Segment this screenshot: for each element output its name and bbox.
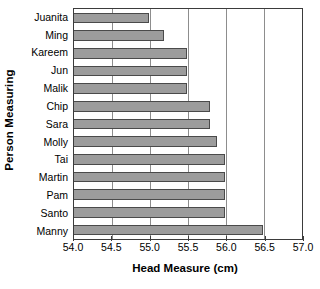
- bar-row: [74, 80, 302, 98]
- bar: [73, 207, 225, 218]
- bar: [73, 154, 225, 165]
- x-tick-label: 55.0: [139, 241, 159, 253]
- bar-row: [74, 186, 302, 204]
- x-axis-title: Head Measure (cm): [60, 262, 310, 274]
- bar: [73, 66, 187, 77]
- x-axis-tick-labels: 54.054.555.055.556.056.557.0: [73, 241, 303, 257]
- category-label: Juanita: [16, 8, 71, 26]
- category-label: Malik: [16, 79, 71, 97]
- x-tick-mark: [188, 236, 189, 241]
- x-tick-label: 57.0: [293, 241, 313, 253]
- bar-row: [74, 168, 302, 186]
- category-label: Ming: [16, 26, 71, 44]
- bar-row: [74, 151, 302, 169]
- category-label: Tai: [16, 151, 71, 169]
- bar-row: [74, 27, 302, 45]
- bar-row: [74, 62, 302, 80]
- bar: [73, 48, 187, 59]
- category-label: Martin: [16, 169, 71, 187]
- x-tick-label: 56.0: [216, 241, 236, 253]
- x-tick-label: 54.5: [101, 241, 121, 253]
- bar: [73, 30, 164, 41]
- category-label: Sara: [16, 115, 71, 133]
- x-tick-label: 56.5: [254, 241, 274, 253]
- category-label: Kareem: [16, 44, 71, 62]
- category-label: Chip: [16, 97, 71, 115]
- bar: [73, 172, 225, 183]
- x-tick-label: 55.5: [178, 241, 198, 253]
- bar-row: [74, 133, 302, 151]
- x-tick-mark: [265, 236, 266, 241]
- bar: [73, 119, 210, 130]
- bar: [73, 189, 225, 200]
- bar-row: [74, 44, 302, 62]
- x-tick-mark: [303, 236, 304, 241]
- bar-row: [74, 9, 302, 27]
- bar: [73, 136, 217, 147]
- category-label: Jun: [16, 62, 71, 80]
- plot-area: [73, 8, 303, 240]
- y-axis-title-label: Person Measuring: [3, 69, 15, 170]
- bar-chart-figure: Person Measuring JuanitaMingKareemJunMal…: [0, 0, 320, 289]
- x-tick-mark: [73, 236, 74, 241]
- bar-row: [74, 115, 302, 133]
- bar: [73, 13, 149, 24]
- category-axis-labels: JuanitaMingKareemJunMalikChipSaraMollyTa…: [16, 8, 71, 240]
- bars-layer: [74, 9, 302, 239]
- x-tick-mark: [226, 236, 227, 241]
- x-tick-mark: [111, 236, 112, 241]
- bar-row: [74, 204, 302, 222]
- bar: [73, 83, 187, 94]
- category-label: Pam: [16, 186, 71, 204]
- bar: [73, 225, 263, 236]
- x-tick-mark: [150, 236, 151, 241]
- category-label: Santo: [16, 204, 71, 222]
- bar-row: [74, 97, 302, 115]
- x-tick-label: 54.0: [63, 241, 83, 253]
- category-label: Manny: [16, 222, 71, 240]
- bar: [73, 101, 210, 112]
- category-label: Molly: [16, 133, 71, 151]
